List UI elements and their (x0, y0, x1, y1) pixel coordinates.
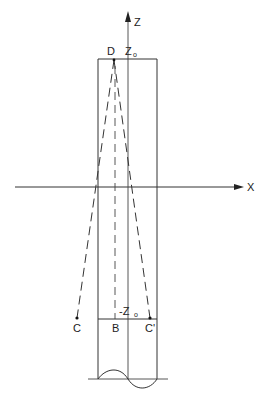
label-d: D (107, 45, 115, 57)
ray-d-to-c (77, 60, 114, 318)
x-axis: X (15, 181, 255, 193)
geometry-diagram: X Z D Z o -Z o C B C' (0, 0, 268, 401)
point-d (113, 59, 116, 62)
ray-lines (77, 60, 150, 319)
x-axis-label: X (247, 181, 255, 193)
label-minus-z0: -Z o (119, 305, 138, 318)
label-z0-top: Z o (125, 45, 137, 58)
point-c (75, 316, 78, 319)
svg-text:-Z: -Z (119, 305, 130, 317)
z-axis-label: Z (134, 16, 141, 28)
label-c-prime: C' (145, 322, 155, 334)
z-axis: Z (125, 11, 141, 379)
svg-text:Z: Z (125, 45, 132, 57)
svg-text:o: o (134, 311, 138, 318)
point-c-prime (148, 316, 151, 319)
z-axis-arrow-icon (125, 11, 131, 22)
label-c: C (73, 322, 81, 334)
svg-text:o: o (133, 51, 137, 58)
x-axis-arrow-icon (234, 184, 244, 190)
label-b: B (112, 322, 119, 334)
ray-d-to-c-prime (114, 60, 150, 318)
